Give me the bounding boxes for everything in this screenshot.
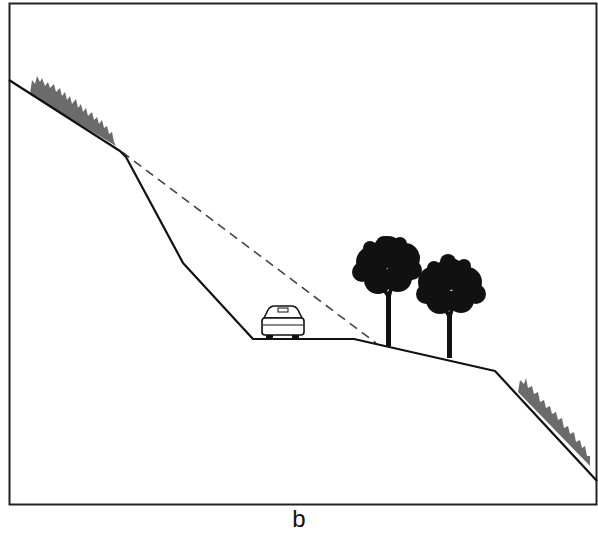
ground-profile-line — [9, 80, 597, 481]
lower-slope-vegetation — [518, 378, 590, 466]
car — [262, 306, 304, 340]
road-cut-cross-section-diagram — [0, 0, 598, 534]
figure-caption: b — [0, 506, 598, 532]
diagram-frame — [10, 4, 597, 505]
tree-1 — [352, 236, 422, 346]
original-ground-line — [122, 152, 376, 343]
tree-2 — [416, 254, 486, 358]
upper-slope-vegetation — [30, 76, 116, 146]
